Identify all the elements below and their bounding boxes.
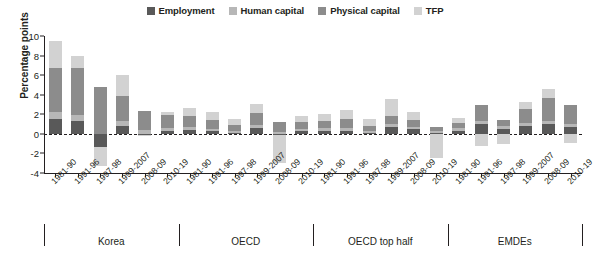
legend-swatch-icon	[229, 7, 237, 15]
y-axis-line	[44, 36, 45, 173]
group-label-oecd: OECD	[231, 236, 260, 247]
bar-segment-physical-capital	[273, 122, 286, 132]
bar-emdes-1999-2007[interactable]	[519, 36, 532, 173]
group-separator	[179, 224, 180, 246]
group-separator	[582, 224, 583, 246]
bar-segment-human-capital	[49, 112, 62, 119]
bar-oecd-top-half-1981-90[interactable]	[318, 36, 331, 173]
bar-segment-employment	[183, 130, 196, 134]
bar-segment-employment	[71, 121, 84, 134]
bar-segment-human-capital	[138, 130, 151, 134]
legend-label: Human capital	[241, 5, 305, 16]
bar-segment-employment	[385, 127, 398, 134]
legend-label: Physical capital	[330, 5, 400, 16]
bar-segment-tfp	[340, 110, 353, 119]
bar-oecd-1981-90[interactable]	[183, 36, 196, 173]
legend-item-physical-capital[interactable]: Physical capital	[318, 5, 400, 16]
bar-segment-physical-capital	[250, 113, 263, 125]
bar-segment-human-capital	[452, 128, 465, 131]
bar-emdes-1997-98[interactable]	[497, 36, 510, 173]
bar-segment-human-capital	[71, 115, 84, 121]
y-axis-tick-mark	[40, 36, 44, 37]
bar-segment-tfp	[363, 119, 376, 126]
bar-oecd-1999-2007[interactable]	[250, 36, 263, 173]
bar-korea-1997-98[interactable]	[94, 36, 107, 173]
bar-segment-employment	[340, 131, 353, 134]
bar-segment-human-capital	[385, 124, 398, 127]
bar-segment-tfp	[138, 135, 151, 136]
bar-segment-employment	[542, 124, 555, 134]
bar-segment-tfp	[452, 118, 465, 123]
bar-segment-human-capital	[430, 131, 443, 133]
y-axis-tick-mark	[40, 114, 44, 115]
bar-segment-physical-capital	[138, 111, 151, 130]
bar-oecd-top-half-1991-96[interactable]	[340, 36, 353, 173]
bar-segment-employment	[363, 133, 376, 134]
bar-segment-human-capital	[295, 129, 308, 131]
group-separator	[313, 224, 314, 246]
legend-label: Employment	[159, 5, 215, 16]
legend-label: TFP	[426, 5, 444, 16]
bar-segment-employment	[116, 126, 129, 134]
bar-segment-human-capital	[183, 127, 196, 130]
bar-segment-physical-capital	[407, 120, 420, 127]
bar-korea-1999-2007[interactable]	[116, 36, 129, 173]
bar-segment-employment	[564, 127, 577, 134]
group-separator	[44, 224, 45, 246]
group-label-oecd-top-half: OECD top half	[348, 236, 412, 247]
bar-segment-tfp	[228, 119, 241, 125]
bar-korea-2010-19[interactable]	[161, 36, 174, 173]
bar-segment-physical-capital	[183, 116, 196, 127]
bar-emdes-1991-96[interactable]	[475, 36, 488, 173]
bar-oecd-2010-19[interactable]	[295, 36, 308, 173]
group-separator	[448, 224, 449, 246]
y-axis-tick-mark	[40, 153, 44, 154]
bar-segment-tfp	[71, 56, 84, 69]
bar-oecd-1991-96[interactable]	[206, 36, 219, 173]
y-axis-tick-mark	[40, 133, 44, 134]
bar-segment-employment	[407, 129, 420, 134]
bar-segment-tfp	[295, 116, 308, 122]
bar-segment-human-capital	[519, 123, 532, 126]
bar-oecd-top-half-2010-19[interactable]	[430, 36, 443, 173]
bar-segment-tfp	[161, 112, 174, 115]
bar-segment-employment	[94, 134, 107, 147]
y-axis-tick-mark	[40, 75, 44, 76]
bar-segment-tfp	[430, 134, 443, 158]
legend-item-tfp[interactable]: TFP	[414, 5, 444, 16]
bar-segment-employment	[295, 131, 308, 134]
bar-segment-tfp	[519, 102, 532, 110]
bar-emdes-1981-90[interactable]	[452, 36, 465, 173]
bar-segment-tfp	[318, 114, 331, 121]
bar-segment-human-capital	[116, 121, 129, 126]
bar-segment-physical-capital	[497, 120, 510, 126]
bar-segment-human-capital	[497, 126, 510, 129]
plot-inner: 1086420-2-4	[44, 36, 582, 173]
bar-segment-tfp	[407, 112, 420, 120]
y-axis-tick-mark	[40, 55, 44, 56]
bar-oecd-top-half-1997-98[interactable]	[363, 36, 376, 173]
legend-swatch-icon	[414, 7, 422, 15]
bar-segment-physical-capital	[340, 119, 353, 128]
legend-swatch-icon	[318, 7, 326, 15]
legend-item-human-capital[interactable]: Human capital	[229, 5, 305, 16]
bar-oecd-top-half-1999-2007[interactable]	[385, 36, 398, 173]
bar-segment-physical-capital	[71, 68, 84, 115]
bar-segment-physical-capital	[452, 123, 465, 128]
bar-segment-physical-capital	[206, 120, 219, 129]
bar-segment-tfp	[183, 108, 196, 116]
bar-segment-physical-capital	[385, 116, 398, 124]
bar-segment-employment	[318, 131, 331, 134]
bar-korea-1991-96[interactable]	[71, 36, 84, 173]
bar-oecd-1997-98[interactable]	[228, 36, 241, 173]
legend-swatch-icon	[147, 7, 155, 15]
bar-segment-human-capital	[250, 125, 263, 128]
bar-segment-physical-capital	[94, 87, 107, 134]
legend-item-employment[interactable]: Employment	[147, 5, 215, 16]
bar-segment-tfp	[564, 134, 577, 143]
bar-segment-tfp	[250, 104, 263, 114]
bar-korea-1981-90[interactable]	[49, 36, 62, 173]
bar-segment-physical-capital	[318, 121, 331, 128]
bar-emdes-2010-19[interactable]	[564, 36, 577, 173]
bar-segment-employment	[475, 124, 488, 134]
